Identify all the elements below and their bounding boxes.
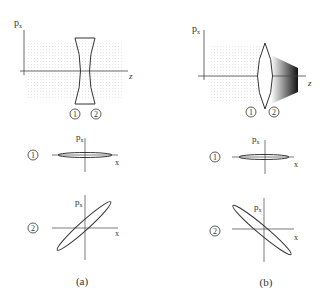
converging-beam [271, 55, 298, 104]
marker-1-label: 1 [213, 153, 217, 162]
beam-region [209, 46, 264, 102]
panel-b-top-plot: px z 1 2 [192, 23, 312, 117]
x-axis-label: x [294, 233, 298, 242]
marker-2-label: 2 [31, 224, 35, 233]
panel-b-phase-space-1: 1 px x [210, 134, 298, 174]
marker-1-label: 1 [31, 151, 35, 160]
panel-a-phase-space-1: 1 px x [28, 132, 119, 172]
marker-2-label: 2 [272, 108, 276, 117]
x-axis-label: x [115, 158, 119, 167]
caption-a: (a) [76, 275, 89, 288]
z-axis-label: z [307, 78, 312, 88]
px-axis-label: px [254, 202, 262, 213]
marker-2-label: 2 [213, 227, 217, 236]
px-axis-label: px [252, 134, 260, 145]
panel-b: px z 1 2 1 px x 2 px x (b) [192, 23, 312, 289]
lens-phase-space-diagram: px z 1 2 1 px x 2 px x [0, 0, 324, 300]
phase-ellipse [230, 202, 294, 258]
x-axis-label: x [294, 160, 298, 169]
marker-1-label: 1 [249, 108, 253, 117]
marker-1-label: 1 [73, 110, 77, 119]
z-axis-label: z [128, 71, 133, 81]
panel-a-top-plot: px z 1 2 [14, 17, 133, 119]
px-axis-label: px [14, 17, 22, 29]
x-axis-label: x [115, 229, 119, 238]
beam-region [28, 42, 123, 98]
px-axis-label: px [76, 132, 84, 143]
caption-b: (b) [260, 276, 273, 289]
panel-a: px z 1 2 1 px x 2 px x [14, 17, 133, 288]
px-axis-label: px [75, 197, 83, 208]
panel-b-phase-space-2: 2 px x [210, 198, 298, 262]
phase-ellipse [54, 199, 114, 254]
marker-2-label: 2 [94, 110, 98, 119]
panel-a-phase-space-2: 2 px x [28, 195, 119, 260]
px-axis-label: px [192, 23, 200, 35]
